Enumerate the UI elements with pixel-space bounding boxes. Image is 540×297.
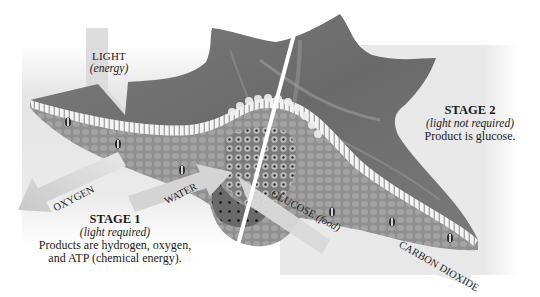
- stage-1-line-1: Products are hydrogen, oxygen,: [22, 239, 208, 252]
- stage-2-caption: STAGE 2 (light not required) Product is …: [420, 103, 520, 143]
- photosynthesis-diagram: LIGHT (energy) OXYGEN WATER GLUCOSE (foo…: [0, 0, 540, 297]
- stage-2-note: (light not required): [420, 117, 520, 130]
- stage-1-note: (light required): [22, 226, 208, 239]
- light-note: (energy): [84, 62, 134, 75]
- stage-2-line-1: Product is glucose.: [420, 130, 520, 143]
- stage-2-title: STAGE 2: [420, 103, 520, 117]
- light-title: LIGHT: [84, 50, 134, 62]
- stage-1-line-2: and ATP (chemical energy).: [22, 252, 208, 265]
- light-label: LIGHT (energy): [84, 50, 134, 75]
- stage-1-title: STAGE 1: [22, 212, 208, 226]
- stage-1-caption: STAGE 1 (light required) Products are hy…: [22, 212, 208, 266]
